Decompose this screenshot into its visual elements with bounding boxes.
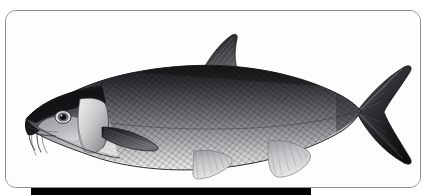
barbel-lower-left [32,133,36,155]
screenshot-root: Black and white engraving of a barbel fi… [0,0,434,196]
caudal-fin [358,66,411,164]
barbel-upper-right [37,134,41,152]
eye-group [55,111,71,124]
caption-bar [31,188,311,195]
fish-illustration [6,11,420,187]
caption-bar-label [31,188,32,189]
eye-highlight [60,115,62,117]
caudal-fin-group [358,66,411,164]
illustration-plate [5,10,421,188]
figure-alt-text: Black and white engraving of a barbel fi… [0,0,1,1]
